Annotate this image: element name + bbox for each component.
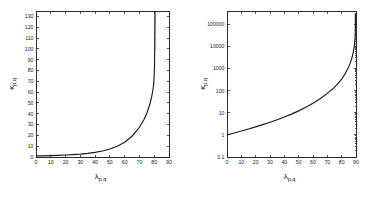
- y-tick-label: 100: [25, 46, 34, 52]
- chart-left-svg: 0102030405060708090010203040506070809010…: [0, 0, 186, 201]
- data-curve-kappa_pq: [227, 14, 355, 135]
- x-tick-label: 50: [107, 159, 113, 165]
- x-axis-label: λp,q: [284, 172, 296, 182]
- y-tick-label: 30: [28, 121, 34, 127]
- x-tick-label: 20: [253, 159, 259, 165]
- x-tick-label: 30: [77, 159, 83, 165]
- x-tick-label: 0: [226, 159, 229, 165]
- x-tick-label: 10: [238, 159, 244, 165]
- y-tick-label: 0: [31, 154, 34, 160]
- y-tick-label: 40: [28, 111, 34, 117]
- y-tick-label: 50: [28, 100, 34, 106]
- y-tick-label: 110: [25, 35, 33, 41]
- x-tick-label: 10: [48, 159, 54, 165]
- y-tick-label: 100: [216, 88, 225, 94]
- chart-panel-right: 01020304050607080900.1110100100010000100…: [185, 0, 371, 201]
- y-axis-label-subscript: p,q: [202, 78, 208, 86]
- y-tick-label: 60: [28, 89, 34, 95]
- x-tick-label: 50: [296, 159, 302, 165]
- data-curve-kappa_pq: [36, 11, 155, 156]
- y-tick-label: 120: [25, 24, 34, 30]
- y-axis-label: κp,q: [198, 78, 208, 90]
- y-tick-label: 1: [222, 132, 225, 138]
- y-tick-label: 70: [28, 78, 34, 84]
- y-axis-label-subscript: p,q: [11, 78, 17, 86]
- y-tick-label: 1000: [213, 65, 225, 71]
- x-tick-label: 40: [281, 159, 287, 165]
- x-tick-label: 70: [137, 159, 143, 165]
- x-tick-label: 20: [63, 159, 69, 165]
- x-tick-label: 40: [92, 159, 98, 165]
- x-tick-label: 90: [353, 159, 359, 165]
- y-tick-label: 10: [219, 110, 225, 116]
- chart-right-svg: 01020304050607080900.1110100100010000100…: [185, 0, 371, 201]
- x-axis-label-subscript: p,q: [99, 176, 107, 182]
- y-tick-label: 0.1: [217, 154, 224, 160]
- x-tick-label: 90: [166, 159, 172, 165]
- two-panel-figure: 0102030405060708090010203040506070809010…: [0, 0, 371, 201]
- y-tick-label: 20: [28, 132, 34, 138]
- x-tick-label: 30: [267, 159, 273, 165]
- x-tick-label: 80: [339, 159, 345, 165]
- x-tick-label: 70: [324, 159, 330, 165]
- x-tick-label: 60: [122, 159, 128, 165]
- plot-box: [36, 11, 169, 157]
- chart-panel-left: 0102030405060708090010203040506070809010…: [0, 0, 186, 201]
- x-tick-label: 0: [35, 159, 38, 165]
- y-tick-label: 10: [28, 143, 34, 149]
- y-tick-label: 90: [28, 57, 34, 63]
- x-axis-label: λp,q: [95, 172, 107, 182]
- y-tick-label: 130: [25, 13, 34, 19]
- y-axis-label: κp,q: [7, 78, 17, 90]
- x-tick-label: 80: [151, 159, 157, 165]
- y-tick-label: 10000: [210, 43, 225, 49]
- y-tick-label: 80: [28, 67, 34, 73]
- x-tick-label: 60: [310, 159, 316, 165]
- x-axis-label-subscript: p,q: [288, 176, 296, 182]
- plot-box: [227, 11, 356, 157]
- y-tick-label: 100000: [207, 21, 224, 27]
